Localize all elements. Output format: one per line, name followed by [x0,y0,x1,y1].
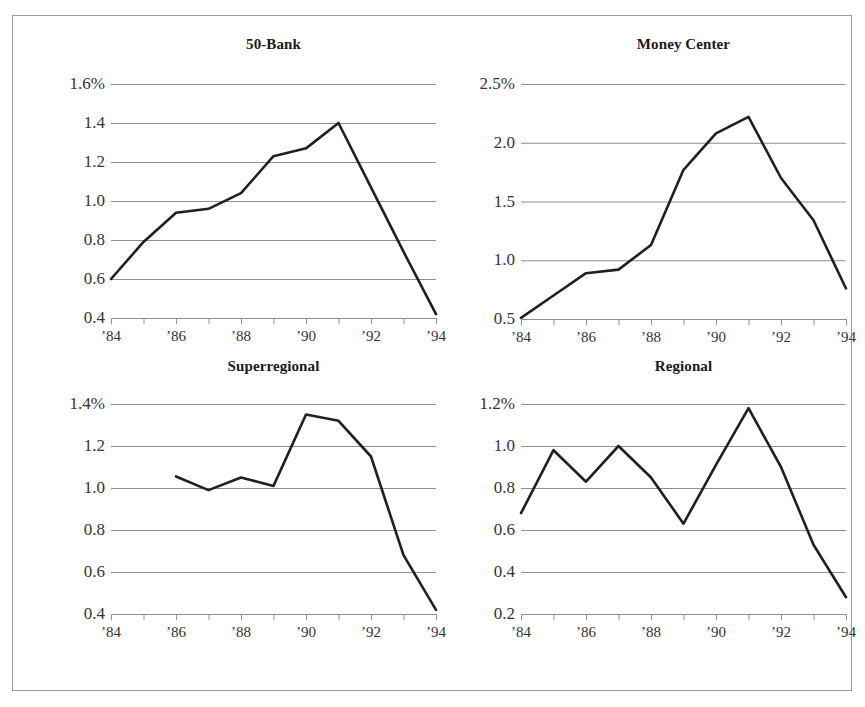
y-axis-tick-label: 1.0 [49,191,105,211]
gridlines [521,405,846,615]
chart-title: Money Center [521,36,846,53]
chart-title: Superregional [111,358,436,375]
plot-area [521,404,850,628]
y-axis-tick-label: 1.0 [49,478,105,498]
y-axis-tick-label: 1.5 [459,192,515,212]
gridlines [111,85,436,319]
y-axis-tick-label: 1.2 [49,152,105,172]
y-axis-tick-label: 0.6 [49,269,105,289]
y-axis-tick-label: 0.2 [459,604,515,624]
plot-area [111,84,440,332]
plot-area [111,404,440,628]
y-axis-tick-label: 0.5 [459,309,515,329]
data-series-line [176,415,436,610]
chart-title: 50-Bank [111,36,436,53]
data-series-line [111,123,436,314]
y-axis-tick-label: 0.4 [49,308,105,328]
y-axis-tick-label: 2.0 [459,133,515,153]
y-axis-tick-label: 0.6 [49,562,105,582]
y-axis-tick-label: 0.8 [459,478,515,498]
y-axis-tick-label: 1.2% [459,394,515,414]
y-axis-tick-label: 1.0 [459,250,515,270]
y-axis-tick-label: 0.8 [49,230,105,250]
y-axis-tick-label: 0.4 [459,562,515,582]
y-axis-tick-label: 1.4 [49,113,105,133]
y-axis-tick-label: 0.4 [49,604,105,624]
y-axis-tick-label: 2.5% [459,74,515,94]
y-axis-tick-label: 0.6 [459,520,515,540]
plot-area [521,84,850,333]
data-series-line [521,117,846,318]
chart-title: Regional [521,358,846,375]
data-series-line [521,408,846,597]
y-axis-tick-label: 1.4% [49,394,105,414]
y-axis-tick-label: 1.0 [459,436,515,456]
figure-frame: 50-Bank0.40.60.81.01.21.41.6%’84’86’88’9… [12,15,852,691]
y-axis-tick-label: 0.8 [49,520,105,540]
y-axis-tick-label: 1.6% [49,74,105,94]
y-axis-tick-label: 1.2 [49,436,105,456]
